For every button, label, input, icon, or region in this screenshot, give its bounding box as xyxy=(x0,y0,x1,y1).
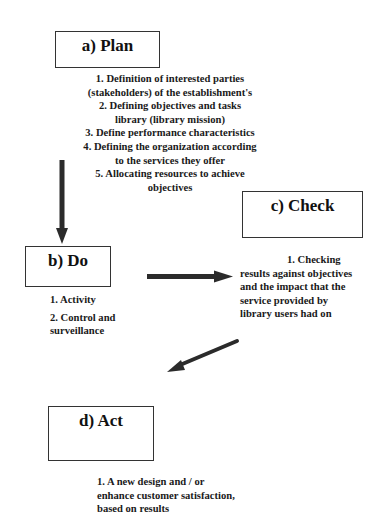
arrow-right-icon xyxy=(147,271,233,283)
arrows-layer xyxy=(0,0,382,517)
arrow-down-left-icon xyxy=(167,341,237,372)
arrow-down-icon xyxy=(56,160,68,244)
